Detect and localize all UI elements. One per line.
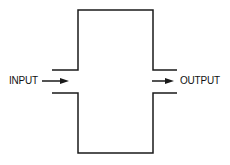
chamber-outline-bottom bbox=[52, 93, 177, 153]
chamber-outline-top bbox=[52, 10, 177, 70]
input-arrow-icon bbox=[60, 78, 69, 84]
output-arrow-icon bbox=[165, 78, 174, 84]
output-label: OUTPUT bbox=[180, 75, 220, 86]
input-label: INPUT bbox=[9, 75, 38, 86]
